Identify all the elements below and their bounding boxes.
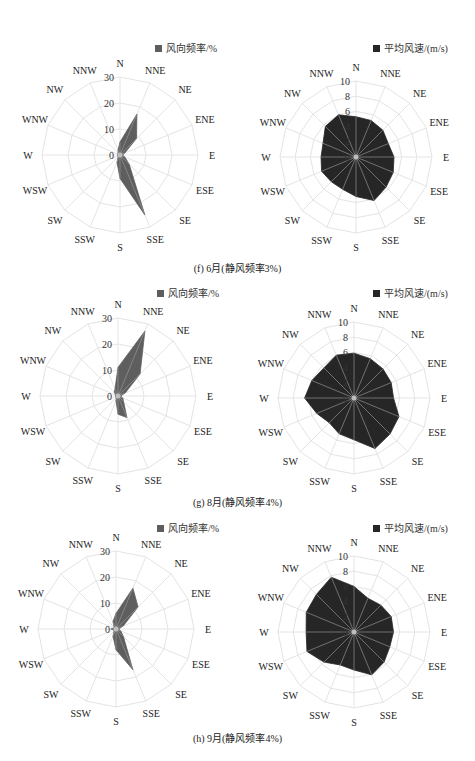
direction-label-wsw: WSW (23, 185, 48, 196)
radar-plot: 0102030NNNENEENEEESESESSESSSWSWWSWWWNWNW… (0, 30, 237, 265)
direction-label-nw: NW (45, 325, 62, 336)
direction-label-w: W (259, 393, 269, 404)
radial-tick-label: 10 (338, 551, 348, 562)
direction-label-e: E (207, 391, 213, 402)
direction-label-wnw: WNW (20, 355, 47, 366)
radial-tick-label: 30 (102, 313, 112, 324)
direction-label-sw: SW (43, 689, 59, 700)
radial-tick-label: 0 (107, 391, 112, 402)
radial-tick-label: 0 (345, 152, 350, 163)
radar-plot: 0246810NNNENEENEEESESESSESSSWSWWSWWWNWNW… (238, 278, 475, 513)
direction-label-se: SE (175, 689, 187, 700)
radial-tick-label: 20 (104, 98, 114, 109)
direction-label-ssw: SSW (75, 234, 96, 245)
direction-label-n: N (114, 299, 121, 310)
chart-g-frequency: 风向频率/% 0102030NNNENEENEEESESESSESSSWSWWS… (0, 278, 237, 513)
radar-plot: 0102030NNNENEENEEESESESSESSSWSWWSWWWNWNW… (0, 278, 237, 513)
radial-tick-label: 20 (102, 339, 112, 350)
radial-tick-label: 2 (343, 611, 348, 622)
radial-tick-label: 2 (343, 377, 348, 388)
radial-tick-label: 6 (345, 106, 350, 117)
direction-label-sse: SSE (382, 235, 399, 246)
direction-label-ene: ENE (193, 355, 212, 366)
direction-label-wsw: WSW (21, 426, 46, 437)
direction-label-e: E (205, 624, 211, 635)
radial-tick-label: 10 (338, 317, 348, 328)
direction-label-s: S (113, 716, 119, 727)
direction-label-ne: NE (176, 325, 189, 336)
caption-g: (g) 8月(静风频率4%) (0, 494, 475, 509)
direction-label-sw: SW (283, 456, 299, 467)
center-dot (352, 396, 357, 401)
grid-spoke (61, 629, 116, 684)
direction-label-se: SE (412, 456, 424, 467)
direction-label-wnw: WNW (260, 117, 287, 128)
direction-label-n: N (350, 537, 357, 548)
direction-label-nnw: NNW (73, 65, 97, 76)
radar-plot: 0246810NNNENEENEEESESESSESSSWSWWSWWWNWNW… (238, 30, 475, 265)
radial-tick-label: 6 (343, 347, 348, 358)
direction-label-ene: ENE (427, 592, 446, 603)
direction-label-wsw: WSW (259, 661, 284, 672)
direction-label-ese: ESE (430, 186, 448, 197)
direction-label-ne: NE (178, 84, 191, 95)
radial-tick-label: 8 (343, 566, 348, 577)
direction-label-e: E (441, 627, 447, 638)
radial-tick-label: 10 (100, 598, 110, 609)
center-dot (116, 394, 121, 399)
direction-label-nne: NNE (378, 309, 399, 320)
radial-tick-label: 4 (343, 596, 348, 607)
center-dot (114, 627, 119, 632)
radial-tick-label: 4 (345, 121, 350, 132)
direction-label-wnw: WNW (22, 114, 49, 125)
radial-tick-label: 0 (343, 627, 348, 638)
radial-tick-label: 10 (102, 365, 112, 376)
direction-label-ssw: SSW (71, 708, 92, 719)
direction-label-ene: ENE (429, 117, 448, 128)
direction-label-ese: ESE (196, 185, 214, 196)
direction-label-ese: ESE (194, 426, 212, 437)
direction-label-nw: NW (43, 558, 60, 569)
radial-tick-label: 10 (104, 124, 114, 135)
center-dot (118, 153, 123, 158)
direction-label-ssw: SSW (73, 475, 94, 486)
direction-label-sse: SSE (143, 708, 160, 719)
radial-tick-label: 2 (345, 136, 350, 147)
direction-label-ssw: SSW (309, 710, 330, 721)
radial-tick-label: 30 (104, 72, 114, 83)
radial-tick-label: 0 (109, 150, 114, 161)
direction-label-nw: NW (282, 563, 299, 574)
direction-label-e: E (441, 393, 447, 404)
radial-tick-label: 20 (100, 572, 110, 583)
radar-plot: 0102030NNNENEENEEESESESSESSSWSWWSWWWNWNW… (0, 512, 237, 747)
direction-label-nne: NNE (143, 306, 164, 317)
direction-label-sw: SW (47, 215, 63, 226)
direction-label-ese: ESE (428, 427, 446, 438)
direction-label-ne: NE (413, 88, 426, 99)
direction-label-sw: SW (283, 690, 299, 701)
caption-f: (f) 6月(静风频率3%) (0, 260, 475, 275)
direction-label-w: W (259, 627, 269, 638)
direction-label-n: N (350, 303, 357, 314)
direction-label-s: S (351, 717, 357, 728)
direction-label-sse: SSE (380, 710, 397, 721)
grid-spoke (118, 396, 173, 451)
direction-label-ese: ESE (428, 661, 446, 672)
direction-label-nnw: NNW (71, 306, 95, 317)
direction-label-sse: SSE (380, 476, 397, 487)
direction-label-se: SE (179, 215, 191, 226)
direction-label-sw: SW (285, 215, 301, 226)
direction-label-nnw: NNW (310, 68, 334, 79)
direction-label-w: W (261, 152, 271, 163)
direction-label-ssw: SSW (311, 235, 332, 246)
caption-h: (h) 9月(静风频率4%) (0, 730, 475, 745)
direction-label-w: W (21, 391, 31, 402)
chart-f-frequency: 风向频率/% 0102030NNNENEENEEESESESSESSSWSWWS… (0, 30, 237, 265)
radial-tick-label: 0 (343, 393, 348, 404)
radar-plot: 0246810NNNENEENEEESESESSESSSWSWWSWWWNWNW… (238, 512, 475, 747)
grid-spoke (65, 155, 120, 210)
radial-tick-label: 0 (105, 624, 110, 635)
chart-g-speed: 平均风速/(m/s) 0246810NNNENEENEEESESESSESSSW… (238, 278, 475, 513)
direction-label-nnw: NNW (308, 309, 332, 320)
direction-label-wsw: WSW (261, 186, 286, 197)
